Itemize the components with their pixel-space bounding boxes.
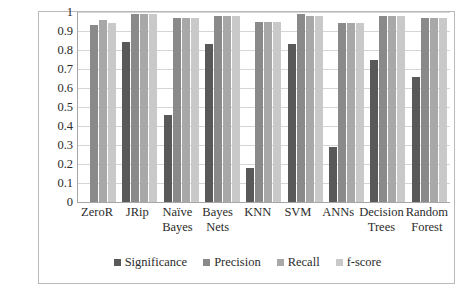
bar <box>397 16 405 202</box>
legend-item-label: f-score <box>347 256 382 269</box>
y-axis-tick-label: 0.6 <box>39 82 73 95</box>
bar <box>149 14 157 202</box>
chart-legend: SignificancePrecisionRecallf-score <box>39 256 456 269</box>
x-axis-category-label: ANNs <box>318 205 358 235</box>
bar-group <box>367 12 408 202</box>
bar <box>140 14 148 202</box>
plot-area <box>77 12 450 203</box>
x-axis-category-label: Naïve Bayes <box>157 205 197 235</box>
legend-item-label: Significance <box>125 256 187 269</box>
bar <box>439 18 447 202</box>
bar <box>273 22 281 203</box>
legend-item[interactable]: Recall <box>277 256 320 269</box>
bar-group <box>409 12 450 202</box>
bar-group <box>326 12 367 202</box>
bar <box>297 14 305 202</box>
bar <box>90 25 98 202</box>
bar <box>223 16 231 202</box>
bar <box>329 147 337 202</box>
legend-item-label: Recall <box>288 256 320 269</box>
legend-item[interactable]: f-score <box>336 256 382 269</box>
bar-group <box>119 12 160 202</box>
bar <box>205 44 213 202</box>
y-axis-tick-label: 0.7 <box>39 63 73 76</box>
bar-group <box>161 12 202 202</box>
bar <box>191 18 199 202</box>
bar-group <box>78 12 119 202</box>
bar <box>356 23 364 202</box>
bar <box>306 16 314 202</box>
bar <box>370 60 378 203</box>
bar <box>182 18 190 202</box>
bar <box>412 77 420 202</box>
bar <box>131 14 139 202</box>
bar <box>99 20 107 202</box>
bar <box>338 23 346 202</box>
x-axis-category-label: Decision Trees <box>358 205 404 235</box>
bar-group <box>202 12 243 202</box>
legend-item[interactable]: Significance <box>114 256 187 269</box>
x-axis-category-label: JRip <box>117 205 157 235</box>
x-axis-category-label: KNN <box>238 205 278 235</box>
x-axis-category-label: Bayes Nets <box>198 205 238 235</box>
bar <box>347 23 355 202</box>
bar <box>315 16 323 202</box>
legend-swatch-icon <box>114 259 121 266</box>
legend-swatch-icon <box>203 259 210 266</box>
bar <box>388 16 396 202</box>
y-axis-tick-label: 1 <box>39 6 73 19</box>
legend-item[interactable]: Precision <box>203 256 261 269</box>
y-axis-tick-label: 0.4 <box>39 120 73 133</box>
bar <box>288 44 296 202</box>
legend-swatch-icon <box>277 259 284 266</box>
legend-swatch-icon <box>336 259 343 266</box>
bar <box>164 115 172 202</box>
y-axis-tick-label: 0 <box>39 196 73 209</box>
x-axis-category-label: SVM <box>278 205 318 235</box>
bar <box>232 16 240 202</box>
bar <box>108 23 116 202</box>
y-axis-tick-label: 0.8 <box>39 44 73 57</box>
bar <box>255 22 263 203</box>
bar <box>264 22 272 203</box>
bar <box>173 18 181 202</box>
bar <box>379 16 387 202</box>
bar <box>430 18 438 202</box>
y-axis-tick-label: 0.2 <box>39 158 73 171</box>
chart-frame: 10.90.80.70.60.50.40.30.20.10 ZeroRJRipN… <box>38 11 455 284</box>
x-axis-category-label: ZeroR <box>77 205 117 235</box>
y-axis-tick-label: 0.5 <box>39 101 73 114</box>
bar <box>421 18 429 202</box>
bar <box>214 16 222 202</box>
bar <box>122 42 130 202</box>
plot-wrapper: 10.90.80.70.60.50.40.30.20.10 <box>39 12 456 217</box>
bar-group <box>243 12 284 202</box>
y-axis-tick-label: 0.1 <box>39 177 73 190</box>
x-axis-category-labels: ZeroRJRipNaïve BayesBayes NetsKNNSVMANNs… <box>77 205 449 235</box>
bars-layer <box>78 12 450 202</box>
bar <box>246 168 254 202</box>
y-axis-tick-label: 0.3 <box>39 139 73 152</box>
y-axis-tick-label: 0.9 <box>39 25 73 38</box>
bar-group <box>285 12 326 202</box>
y-axis: 10.90.80.70.60.50.40.30.20.10 <box>39 12 73 202</box>
x-axis-category-label: Random Forest <box>405 205 449 235</box>
legend-item-label: Precision <box>214 256 261 269</box>
